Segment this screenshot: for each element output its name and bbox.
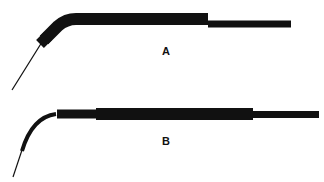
instrument-a-tip-collar — [40, 36, 48, 44]
label-a: A — [162, 45, 170, 57]
instrument-a — [12, 19, 291, 90]
instrument-a-angled-tip — [44, 19, 208, 40]
diagram-canvas — [0, 0, 324, 182]
instrument-b-needle — [13, 150, 22, 177]
instrument-a-needle — [12, 42, 42, 90]
instrument-b-curved-tip — [22, 114, 56, 151]
label-b: B — [162, 135, 170, 147]
